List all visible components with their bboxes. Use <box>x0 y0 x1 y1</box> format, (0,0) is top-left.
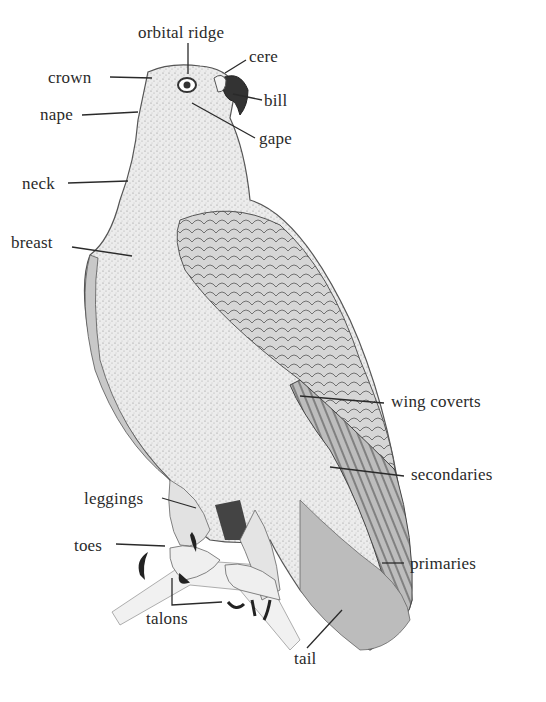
label-bill: bill <box>264 92 287 109</box>
label-breast: breast <box>11 234 53 251</box>
label-wing-coverts: wing coverts <box>391 393 481 410</box>
label-nape: nape <box>40 106 73 123</box>
label-tail: tail <box>294 650 317 667</box>
label-orbital-ridge: orbital ridge <box>138 24 224 41</box>
label-toes: toes <box>74 537 102 554</box>
label-leggings: leggings <box>84 490 143 507</box>
label-neck: neck <box>22 175 55 192</box>
label-gape: gape <box>259 130 292 147</box>
label-talons: talons <box>146 610 188 627</box>
label-cere: cere <box>249 48 278 65</box>
label-primaries: primaries <box>410 555 476 572</box>
label-crown: crown <box>48 69 91 86</box>
label-secondaries: secondaries <box>411 466 493 483</box>
